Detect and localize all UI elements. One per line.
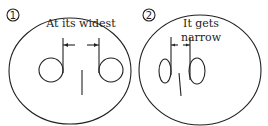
number-2: 2 bbox=[146, 10, 152, 21]
panel-2: 2 It gets narrow bbox=[139, 9, 261, 125]
number-1: 1 bbox=[10, 10, 16, 21]
arrowhead-right-1 bbox=[94, 43, 98, 47]
arrowhead-left-1 bbox=[64, 43, 68, 47]
right-loop-2 bbox=[189, 58, 205, 84]
outer-circle-1 bbox=[9, 18, 131, 124]
arrowhead-left-2 bbox=[172, 44, 175, 47]
caption-1: At its widest bbox=[45, 17, 116, 30]
panel-1: 1 At its widest bbox=[7, 9, 131, 124]
right-loop-1 bbox=[99, 58, 123, 82]
caption-2-line-2: narrow bbox=[181, 31, 222, 44]
center-mark-2 bbox=[179, 73, 181, 96]
diagram: 1 At its widest 2 It gets narrow bbox=[0, 0, 268, 126]
caption-2-line-1: It gets bbox=[183, 17, 219, 30]
left-loop-2 bbox=[159, 59, 171, 83]
left-loop-1 bbox=[39, 58, 63, 82]
